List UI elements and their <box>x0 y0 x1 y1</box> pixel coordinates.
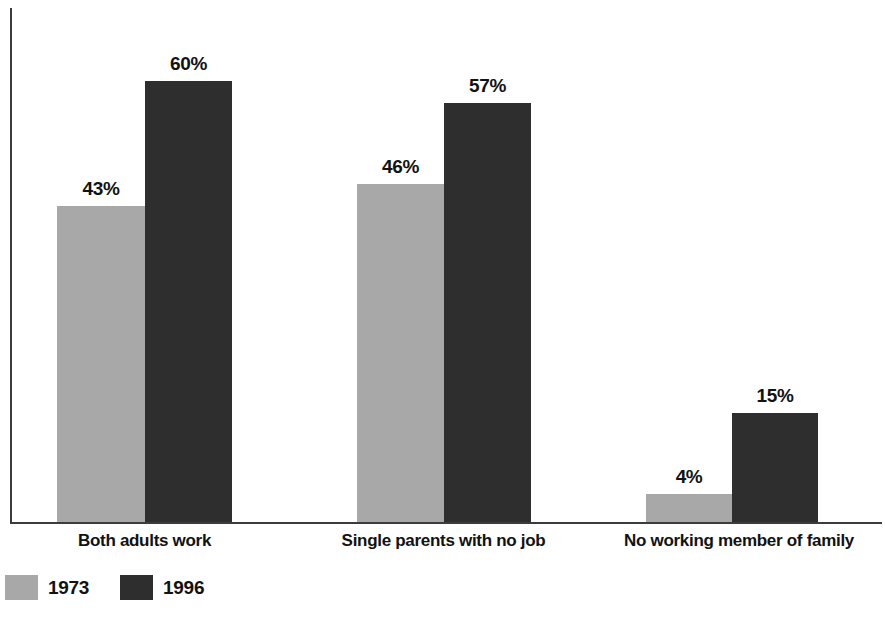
bar-value-group-2-series-0: 4% <box>646 466 732 488</box>
legend-swatch-icon-1996 <box>120 575 153 600</box>
x-axis-line <box>10 522 882 524</box>
bar-chart: 43% 60% 46% 57% 4% 15% Both adults work … <box>0 0 885 622</box>
bar-value-group-0-series-0: 43% <box>57 178 145 200</box>
bar-value-group-1-series-1: 57% <box>444 75 531 97</box>
bar-group-0-series-0 <box>57 206 145 523</box>
bar-group-1-series-1 <box>444 103 531 523</box>
bar-value-group-1-series-0: 46% <box>357 156 444 178</box>
bar-group-2-series-1 <box>732 413 818 523</box>
category-label-1: Single parents with no job <box>326 531 561 551</box>
bar-group-2-series-0 <box>646 494 732 523</box>
legend-swatch-icon-1973 <box>5 575 38 600</box>
legend: 1973 1996 <box>5 575 235 600</box>
legend-label-1973: 1973 <box>48 577 89 599</box>
legend-label-1996: 1996 <box>163 577 204 599</box>
category-label-0: Both adults work <box>27 531 262 551</box>
bar-value-group-2-series-1: 15% <box>732 385 818 407</box>
category-label-2: No working member of family <box>615 531 863 551</box>
plot-area: 43% 60% 46% 57% 4% 15% <box>0 0 885 523</box>
legend-entry-1973: 1973 <box>5 575 89 600</box>
bar-group-0-series-1 <box>145 81 232 523</box>
bar-value-group-0-series-1: 60% <box>145 53 232 75</box>
bar-group-1-series-0 <box>357 184 444 523</box>
legend-entry-1996: 1996 <box>120 575 204 600</box>
